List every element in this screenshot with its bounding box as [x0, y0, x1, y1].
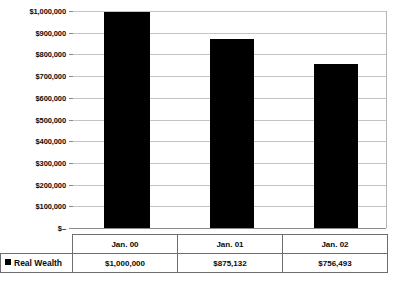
y-tick-label: $200,000: [36, 180, 66, 189]
column-header-jan-02: Jan. 02: [283, 235, 388, 254]
chart-container: $1,000,000 $900,000 $800,000 $700,000 $6…: [0, 0, 402, 283]
y-tick-label: $1,000,000: [29, 7, 66, 16]
column-header-jan-00: Jan. 00: [73, 235, 178, 254]
y-tick-label: $400,000: [36, 137, 66, 146]
table-cell-jan-00: $1,000,000: [73, 254, 178, 273]
legend-row-header: Real Wealth: [1, 254, 73, 273]
bar-jan-01: [210, 39, 254, 228]
table-row: Real Wealth $1,000,000 $875,132 $756,493: [1, 254, 388, 273]
y-tick-label: $500,000: [36, 115, 66, 124]
y-tick-label: $700,000: [36, 72, 66, 81]
bar-jan-02: [314, 64, 358, 228]
y-tick-label: $900,000: [36, 28, 66, 37]
y-tick-label: $100,000: [36, 202, 66, 211]
data-table: Jan. 00 Jan. 01 Jan. 02 Real Wealth $1,0…: [0, 234, 388, 273]
y-tick-label: $300,000: [36, 158, 66, 167]
legend-swatch-icon: [5, 259, 11, 265]
table-cell-jan-01: $875,132: [178, 254, 283, 273]
plot-area: [73, 11, 387, 228]
table-cell-jan-02: $756,493: [283, 254, 388, 273]
table-corner-cell: [1, 235, 73, 254]
y-tick-label: $600,000: [36, 93, 66, 102]
column-header-jan-01: Jan. 01: [178, 235, 283, 254]
table-header-row: Jan. 00 Jan. 01 Jan. 02: [1, 235, 388, 254]
y-tick-label: $–: [58, 224, 66, 233]
bar-jan-00: [104, 12, 150, 229]
y-tick-label: $800,000: [36, 50, 66, 59]
legend-label: Real Wealth: [14, 258, 62, 268]
